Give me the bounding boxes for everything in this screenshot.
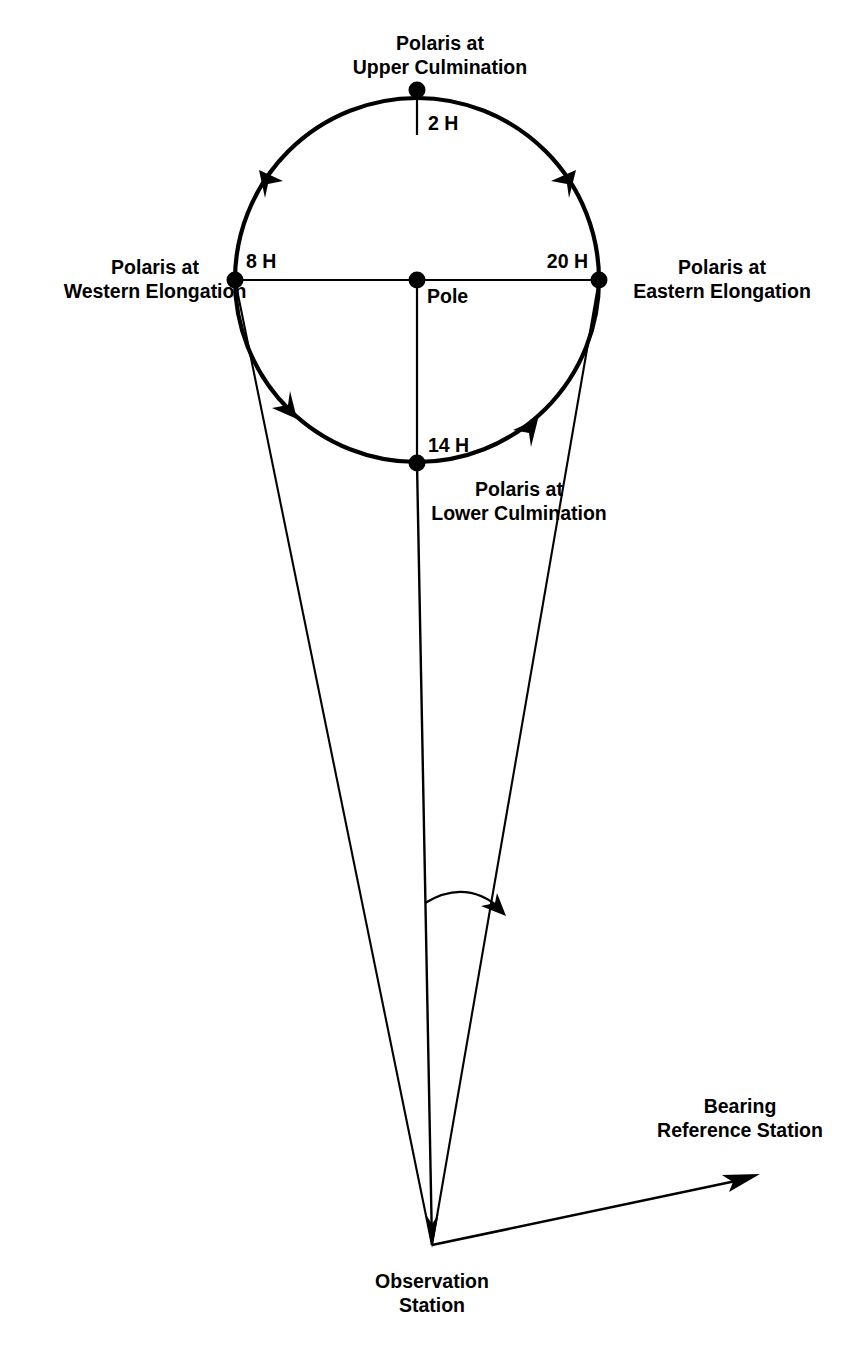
- hour-mark-western-elongation: 8 H: [246, 250, 276, 272]
- polaris-diagram: Polaris at Upper Culmination Polaris at …: [0, 0, 861, 1350]
- dot-lower-culmination: [409, 455, 426, 472]
- sight-line-eastern-elongation: [432, 280, 599, 1245]
- label-lower-culmination-line1: Polaris at: [475, 478, 563, 500]
- label-upper-culmination-line2: Upper Culmination: [353, 56, 527, 78]
- label-upper-culmination-line1: Polaris at: [396, 32, 484, 54]
- dot-pole: [409, 272, 426, 289]
- hour-mark-eastern-elongation: 20 H: [547, 250, 588, 272]
- label-bearing-reference-line2: Reference Station: [657, 1119, 823, 1141]
- dot-upper-culmination: [409, 82, 426, 99]
- label-western-elongation-line2: Western Elongation: [64, 280, 247, 302]
- bearing-angle-arrowhead-icon: [481, 893, 506, 916]
- label-eastern-elongation-line1: Polaris at: [678, 256, 766, 278]
- label-western-elongation-line1: Polaris at: [111, 256, 199, 278]
- hour-mark-lower-culmination: 14 H: [428, 434, 469, 456]
- bearing-reference-line-group: [432, 1174, 760, 1245]
- label-observation-station-line2: Station: [399, 1294, 465, 1316]
- label-lower-culmination-line2: Lower Culmination: [431, 502, 607, 524]
- bearing-angle-arc-group: [425, 892, 506, 916]
- sight-line-western-elongation: [235, 280, 432, 1245]
- dot-eastern-elongation: [591, 272, 608, 289]
- bearing-reference-line: [432, 1178, 750, 1245]
- sight-line-lower-culmination: [417, 463, 432, 1245]
- diagram-canvas: Polaris at Upper Culmination Polaris at …: [0, 0, 861, 1350]
- hour-mark-upper-culmination: 2 H: [428, 112, 458, 134]
- label-pole: Pole: [427, 285, 468, 307]
- label-bearing-reference-line1: Bearing: [704, 1095, 777, 1117]
- label-eastern-elongation-line2: Eastern Elongation: [633, 280, 811, 302]
- label-observation-station-line1: Observation: [375, 1270, 489, 1292]
